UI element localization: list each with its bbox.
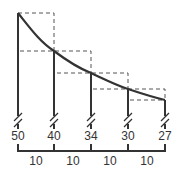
ordinate-label-0: 50	[11, 130, 24, 142]
diagram: 50 40 34 30 27 10 10 10 10	[0, 0, 181, 177]
interval-label-3: 10	[140, 155, 153, 167]
interval-label-0: 10	[29, 155, 42, 167]
ordinate-label-1: 40	[47, 130, 60, 142]
ordinate-label-2: 34	[84, 130, 97, 142]
diagram-svg	[0, 0, 181, 177]
interval-label-1: 10	[66, 155, 79, 167]
dashed-rect-3	[57, 73, 128, 89]
interval-label-2: 10	[103, 155, 116, 167]
ordinate-label-3: 30	[121, 130, 134, 142]
baseline-group	[17, 144, 166, 151]
ordinate-label-4: 27	[158, 130, 171, 142]
dashed-rect-2	[20, 51, 91, 73]
